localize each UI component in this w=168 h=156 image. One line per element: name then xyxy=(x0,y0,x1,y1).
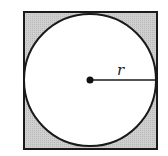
inscribed-circle-diagram: r xyxy=(0,0,168,156)
center-point xyxy=(87,77,94,84)
radius-label: r xyxy=(117,61,125,79)
